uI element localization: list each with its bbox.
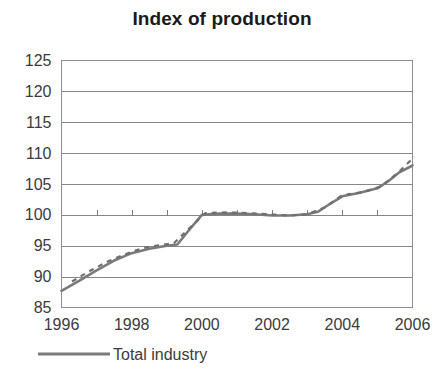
chart-container: Index of production 85909510010511011512… (0, 0, 444, 375)
series-line-trend (72, 157, 414, 282)
x-tick-label-1998: 1998 (114, 316, 150, 333)
y-tick-label-100: 100 (25, 206, 52, 223)
y-tick-label-85: 85 (34, 299, 52, 316)
data-series (62, 157, 415, 291)
y-tick-label-125: 125 (25, 52, 52, 69)
chart-plot: 859095100105110115120125 199619982000200… (0, 0, 444, 375)
y-tick-label-95: 95 (34, 237, 52, 254)
gridlines (62, 92, 413, 278)
x-tick-label-2006: 2006 (395, 316, 431, 333)
y-axis-tick-labels: 859095100105110115120125 (25, 52, 52, 316)
chart-legend: Total industry (38, 346, 207, 363)
y-tick-label-90: 90 (34, 268, 52, 285)
y-tick-label-120: 120 (25, 83, 52, 100)
x-axis-tick-labels: 199619982000200220042006 (44, 316, 431, 333)
x-tick-label-2004: 2004 (325, 316, 361, 333)
legend-label-total-industry: Total industry (113, 346, 207, 363)
x-tick-label-2000: 2000 (184, 316, 220, 333)
x-tick-label-2002: 2002 (254, 316, 290, 333)
x-tick-label-1996: 1996 (44, 316, 80, 333)
y-tick-label-105: 105 (25, 176, 52, 193)
y-tick-label-115: 115 (26, 114, 52, 131)
y-tick-label-110: 110 (26, 145, 52, 162)
